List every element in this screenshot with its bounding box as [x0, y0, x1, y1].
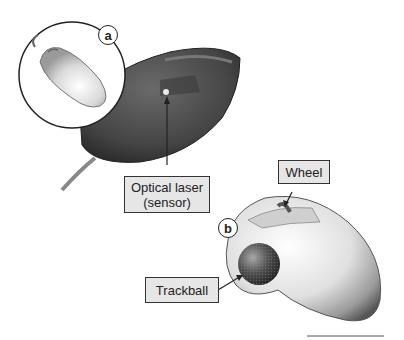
laser-dot	[163, 89, 169, 95]
wheel-label: Wheel	[278, 160, 330, 184]
optical-laser-label-line1: Optical laser	[131, 180, 203, 195]
optical-laser-label-line2: (sensor)	[143, 195, 191, 210]
panel-badge-b: b	[218, 218, 238, 238]
figure-canvas: a b Optical laser (sensor) Wheel Trackba…	[0, 0, 404, 340]
optical-laser-label: Optical laser (sensor)	[124, 176, 210, 213]
trackball-label: Trackball	[145, 277, 219, 303]
panel-badge-a: a	[98, 25, 118, 45]
trackball-mouse	[226, 196, 380, 320]
cord	[62, 158, 95, 190]
